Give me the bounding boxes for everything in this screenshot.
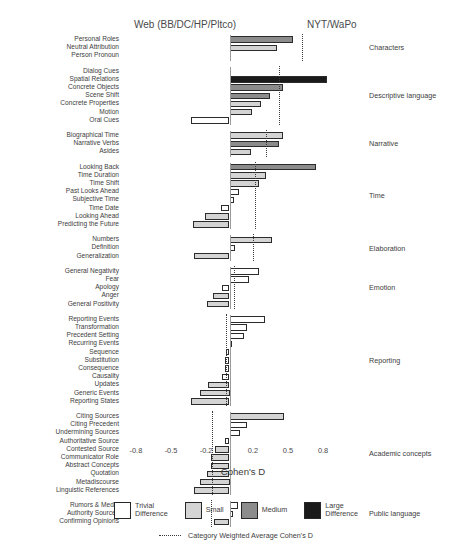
chart-row: Recurring Events <box>0 340 472 348</box>
row-label: Updates <box>94 380 119 387</box>
chart-row: Sequence <box>0 349 472 357</box>
bar-medium <box>230 84 284 90</box>
pole-label-left: Web (BB/DC/HP/Pltco) <box>134 19 236 30</box>
row-label: Citing Precedent <box>70 420 119 427</box>
weighted-average-line <box>302 34 303 61</box>
x-axis-label-text: Cohen's D <box>207 466 266 477</box>
row-label: Concrete Objects <box>68 83 119 90</box>
row-label: Time Shift <box>90 179 119 186</box>
bar-trivial <box>230 333 244 339</box>
row-label: Numbers <box>92 235 119 242</box>
bar-small <box>230 109 252 115</box>
row-label: Generalization <box>76 252 119 259</box>
bar-trivial <box>230 430 241 436</box>
zero-axis-line <box>230 267 231 309</box>
chart-row: Linguistic References <box>0 487 472 495</box>
chart-row: Oral Cues <box>0 117 472 125</box>
row-label: Time Date <box>89 204 119 211</box>
row-label: Concrete Properties <box>60 99 119 106</box>
row-label: Predicting the Future <box>58 220 119 227</box>
chart-row: Apology <box>0 284 472 292</box>
bar-small <box>213 293 229 299</box>
category-label: Descriptive language <box>369 91 436 100</box>
legend-label: Medium <box>262 506 288 514</box>
bar-small <box>230 413 285 419</box>
zero-axis-line <box>230 35 231 61</box>
category-label: Time <box>369 191 385 200</box>
row-label: Consequence <box>78 364 119 371</box>
chart-row: Consequence <box>0 365 472 373</box>
zero-axis-line <box>230 235 231 261</box>
bar-small <box>207 301 229 307</box>
legend-avg-label: Category Weighted Average Cohen's D <box>188 531 313 540</box>
category-label: Reporting <box>369 356 400 365</box>
bar-medium <box>230 93 271 99</box>
chart-row: Updates <box>0 381 472 389</box>
category-label: Academic concepts <box>369 449 431 458</box>
chart-row: Reporting Events <box>0 316 472 324</box>
row-label: Scene Shift <box>85 91 119 98</box>
legend-item-small: Small <box>185 502 224 519</box>
bar-medium <box>230 164 317 170</box>
category-label: Emotion <box>369 283 395 292</box>
row-label: Sequence <box>89 348 119 355</box>
legend-label: Trivial Difference <box>135 502 168 519</box>
row-label: Apology <box>95 283 119 290</box>
weighted-average-line <box>234 266 235 309</box>
row-label: Dialog Cues <box>83 67 119 74</box>
bar-small <box>230 237 272 243</box>
bar-small <box>230 149 251 155</box>
bar-trivial <box>221 205 229 211</box>
chart-row: Looking Back <box>0 164 472 172</box>
legend-label: Large Difference <box>325 502 358 519</box>
row-label: Precedent Setting <box>67 331 119 338</box>
bar-trivial <box>230 276 250 282</box>
row-label: Causality <box>92 372 119 379</box>
row-label: Time Duration <box>78 171 119 178</box>
row-label: Metadiscourse <box>76 478 119 485</box>
bar-medium <box>230 141 279 147</box>
legend-item-large: Large Difference <box>304 502 358 519</box>
x-axis-label: Cohen's D <box>0 466 472 477</box>
row-label: General Positivity <box>68 300 119 307</box>
chart-row: Concrete Properties <box>0 100 472 108</box>
legend-swatch-trivial <box>114 502 131 519</box>
chart-row: General Negativity <box>0 268 472 276</box>
bar-small <box>230 101 262 107</box>
zero-axis-line <box>230 131 231 157</box>
pole-label-right: NYT/WaPo <box>307 19 357 30</box>
chart-row: Causality <box>0 373 472 381</box>
legend-item-medium: Medium <box>241 502 288 519</box>
legend-weighted-average: Category Weighted Average Cohen's D <box>0 531 472 540</box>
chart-row: Reporting States <box>0 398 472 406</box>
chart-row: Subjective Time <box>0 196 472 204</box>
row-label: Biographical Time <box>67 131 119 138</box>
bar-trivial <box>230 422 248 428</box>
bar-small <box>194 253 229 259</box>
weighted-average-line <box>253 234 254 261</box>
axis-tick-label: -0.5 <box>165 446 178 455</box>
bar-small <box>193 221 229 227</box>
bar-medium <box>230 36 293 42</box>
axis-tick-label: -0.8 <box>130 446 143 455</box>
bar-small <box>205 213 230 219</box>
zero-axis-line <box>230 67 231 125</box>
row-label: Fear <box>105 275 119 282</box>
chart-row: Time Date <box>0 205 472 213</box>
weighted-average-line <box>226 314 227 406</box>
row-label: Spatial Relations <box>70 75 119 82</box>
chart-row: Past Looks Ahead <box>0 188 472 196</box>
row-label: Past Looks Ahead <box>66 187 119 194</box>
legend-item-trivial: Trivial Difference <box>114 502 168 519</box>
zero-axis-line <box>230 163 231 230</box>
category-label: Elaboration <box>369 244 405 253</box>
chart-row: Narrative Verbs <box>0 140 472 148</box>
category-label: Public language <box>369 509 420 518</box>
row-label: Linguistic References <box>56 486 119 493</box>
weighted-average-line <box>255 162 256 230</box>
chart-row: Time Duration <box>0 172 472 180</box>
axis-tick-label: 0.5 <box>283 446 293 455</box>
row-label: Motion <box>99 108 119 115</box>
row-label: Looking Back <box>79 163 119 170</box>
row-label: Anger <box>101 291 119 298</box>
